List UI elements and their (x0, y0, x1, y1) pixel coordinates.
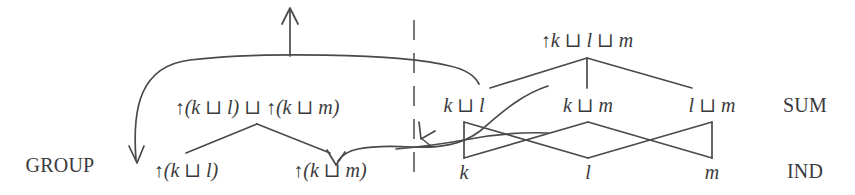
sum-node-lm: l ⊔ m (689, 95, 736, 115)
lattice-figure: .ln { fill:none; stroke:#4a4a4c; stroke-… (0, 0, 855, 195)
left-top-node: ↑(k ⊔ l) ⊔ ↑(k ⊔ m) (175, 97, 340, 117)
ind-node-k: k (460, 162, 469, 182)
row-label-group: GROUP (26, 155, 95, 175)
sum-node-km: k ⊔ m (563, 95, 613, 115)
left-child-node-2: ↑(k ⊔ m) (293, 160, 366, 180)
row-label-ind: IND (787, 161, 823, 181)
ind-node-m: m (705, 162, 719, 182)
left-tree-edge-right (257, 124, 330, 153)
left-curve-arrow-head (129, 146, 144, 163)
right-top-edge-right (587, 58, 692, 88)
sum-node-kl: k ⊔ l (443, 95, 484, 115)
curve-to-ind-k-head (419, 122, 435, 139)
ind-node-l: l (585, 162, 591, 182)
row-label-sum: SUM (783, 95, 827, 115)
right-top-edge-left (490, 58, 587, 88)
right-top-node: ↑k ⊔ l ⊔ m (541, 30, 633, 50)
left-child-node-1: ↑(k ⊔ l) (154, 160, 219, 180)
left-tree-edge-left (186, 124, 257, 153)
